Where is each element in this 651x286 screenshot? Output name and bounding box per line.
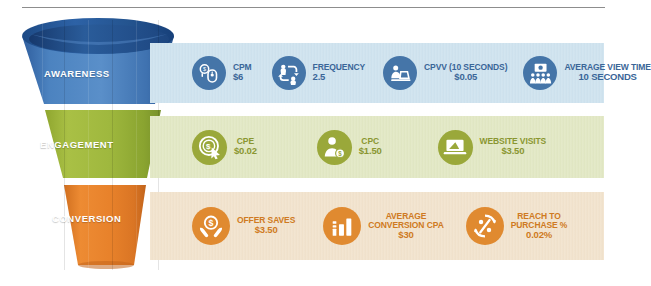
metric-average-conversion-cpa: AVERAGE CONVERSION CPA $30	[323, 207, 443, 245]
stage-label-awareness: AWARENESS	[44, 68, 110, 79]
metric-cpc: $ CPC $1.50	[317, 130, 382, 165]
svg-text:$: $	[209, 218, 214, 228]
metrics-band-conversion: $ OFFER SAVES $3.50	[150, 192, 604, 260]
metric-cpc-text: CPC $1.50	[359, 137, 382, 156]
metric-reach-to-purchase-value: 0.02%	[511, 230, 568, 240]
metric-average-conversion-cpa-text: AVERAGE CONVERSION CPA $30	[368, 212, 443, 240]
metric-cpm-text: CPM $6	[233, 63, 252, 82]
person-laptop-icon	[383, 56, 417, 90]
metric-website-visits: WEBSITE VISITS $3.50	[438, 130, 547, 165]
metric-average-view-time: AVERAGE VIEW TIME 10 SECONDS	[523, 56, 650, 90]
metric-cpe-text: CPE $0.02	[234, 137, 257, 156]
laptop-icon	[438, 130, 473, 165]
bar-chart-icon	[323, 207, 361, 245]
metric-cpvv-value: $0.05	[424, 72, 507, 82]
metric-average-conversion-cpa-name: AVERAGE CONVERSION CPA	[368, 212, 443, 230]
metric-frequency: FREQUENCY 2.5	[272, 56, 365, 90]
frequency-cycle-icon	[272, 56, 306, 90]
metric-frequency-text: FREQUENCY 2.5	[313, 63, 365, 82]
metric-reach-to-purchase-text: REACH TO PURCHASE % 0.02%	[511, 212, 568, 240]
metric-average-view-time-value: 10 SECONDS	[564, 72, 650, 82]
metric-cpm-value: $6	[233, 72, 252, 82]
audience-screen-icon	[523, 56, 557, 90]
metric-cpvv: CPVV (10 SECONDS) $0.05	[383, 56, 507, 90]
cost-per-engagement-icon: $	[192, 130, 227, 165]
stage-label-conversion: CONVERSION	[52, 213, 121, 224]
metric-average-conversion-cpa-value: $30	[368, 230, 443, 240]
metric-website-visits-text: WEBSITE VISITS $3.50	[480, 137, 547, 156]
metric-offer-saves-text: OFFER SAVES $3.50	[237, 216, 295, 235]
stage-label-engagement: ENGAGEMENT	[40, 139, 114, 150]
person-dollar-icon: $	[317, 130, 352, 165]
svg-text:$: $	[338, 150, 342, 158]
metric-frequency-value: 2.5	[313, 72, 365, 82]
metric-website-visits-value: $3.50	[480, 146, 547, 156]
metrics-band-awareness: $ CPM $6	[150, 43, 604, 103]
metric-reach-to-purchase-name: REACH TO PURCHASE %	[511, 212, 568, 230]
mouse-click-cost-icon: $	[192, 56, 226, 90]
svg-text:$: $	[203, 66, 206, 72]
metrics-band-engagement: $ CPE $0.02 $ CPC $1.50	[150, 116, 604, 178]
metric-cpm: $ CPM $6	[192, 56, 252, 90]
metric-cpc-value: $1.50	[359, 146, 382, 156]
percent-arrows-icon	[466, 207, 504, 245]
hands-holding-coin-icon: $	[192, 207, 230, 245]
svg-text:$: $	[206, 142, 211, 151]
metric-cpvv-text: CPVV (10 SECONDS) $0.05	[424, 63, 507, 82]
metric-cpe: $ CPE $0.02	[192, 130, 257, 165]
metric-offer-saves: $ OFFER SAVES $3.50	[192, 207, 295, 245]
funnel-stage-conversion	[64, 185, 146, 269]
metric-cpe-value: $0.02	[234, 146, 257, 156]
metric-reach-to-purchase: REACH TO PURCHASE % 0.02%	[466, 207, 568, 245]
metric-average-view-time-text: AVERAGE VIEW TIME 10 SECONDS	[564, 63, 650, 82]
metric-offer-saves-value: $3.50	[237, 225, 295, 235]
